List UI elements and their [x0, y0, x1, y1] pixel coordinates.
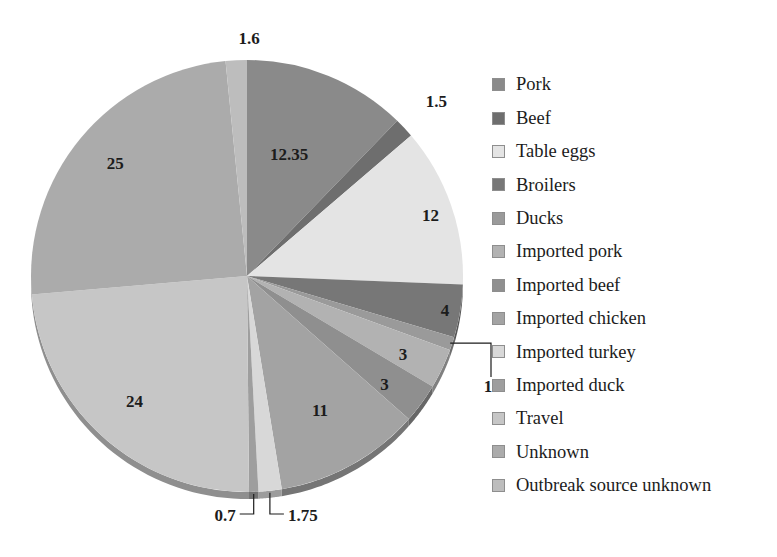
legend-item-label: Imported beef: [516, 276, 620, 295]
chart-legend: PorkBeefTable eggsBroilersDucksImported …: [492, 68, 772, 502]
legend-item-label: Broilers: [516, 176, 576, 195]
legend-item[interactable]: Beef: [492, 101, 772, 134]
pie-slice-value-label: 11: [312, 401, 328, 420]
legend-item-label: Ducks: [516, 209, 563, 228]
legend-swatch-icon: [492, 78, 505, 91]
legend-item-label: Beef: [516, 109, 551, 128]
legend-swatch-icon: [492, 345, 505, 358]
legend-item-label: Imported turkey: [516, 343, 636, 362]
legend-item-label: Pork: [516, 75, 551, 94]
legend-swatch-icon: [492, 245, 505, 258]
legend-item[interactable]: Table eggs: [492, 135, 772, 168]
legend-swatch-icon: [492, 212, 505, 225]
pie-slice-value-label: 1.75: [288, 506, 318, 525]
legend-swatch-icon: [492, 445, 505, 458]
legend-item[interactable]: Outbreak source unknown: [492, 469, 772, 502]
pie-slice-value-label: 0.7: [214, 506, 236, 525]
legend-item-label: Unknown: [516, 443, 589, 462]
pie-slice-value-label: 25: [107, 154, 124, 173]
legend-swatch-icon: [492, 312, 505, 325]
pie-slice-value-label: 3: [380, 375, 389, 394]
slice-leader-line: [450, 343, 491, 377]
pie-slice[interactable]: [31, 61, 247, 294]
legend-item[interactable]: Imported beef: [492, 268, 772, 301]
legend-swatch-icon: [492, 479, 505, 492]
legend-swatch-icon: [492, 178, 505, 191]
legend-item[interactable]: Pork: [492, 68, 772, 101]
pie-slice-value-label: 3: [399, 345, 408, 364]
pie-slice-value-label: 12: [422, 206, 439, 225]
legend-item[interactable]: Ducks: [492, 202, 772, 235]
legend-item[interactable]: Unknown: [492, 435, 772, 468]
pie-chart: 12.351.5124133111.750.724251.6 PorkBeefT…: [0, 0, 777, 557]
pie-slice[interactable]: [32, 276, 249, 492]
pie-slices: [31, 60, 463, 492]
legend-swatch-icon: [492, 145, 505, 158]
legend-item[interactable]: Imported pork: [492, 235, 772, 268]
pie-slice-value-label: 1: [484, 377, 493, 396]
legend-item-label: Imported duck: [516, 376, 624, 395]
legend-item-label: Table eggs: [516, 142, 595, 161]
legend-item[interactable]: Imported turkey: [492, 335, 772, 368]
pie-slice-value-label: 1.5: [426, 92, 447, 111]
legend-item[interactable]: Imported duck: [492, 369, 772, 402]
legend-item[interactable]: Broilers: [492, 168, 772, 201]
legend-item-label: Imported chicken: [516, 309, 646, 328]
legend-item[interactable]: Travel: [492, 402, 772, 435]
pie-slice-value-label: 1.6: [238, 29, 259, 48]
pie-slice-value-label: 24: [126, 392, 144, 411]
legend-swatch-icon: [492, 412, 505, 425]
legend-item-label: Outbreak source unknown: [516, 476, 711, 495]
legend-swatch-icon: [492, 112, 505, 125]
legend-swatch-icon: [492, 379, 505, 392]
legend-swatch-icon: [492, 279, 505, 292]
legend-item-label: Travel: [516, 409, 564, 428]
pie-slice-value-label: 12.35: [270, 145, 308, 164]
legend-item[interactable]: Imported chicken: [492, 302, 772, 335]
legend-item-label: Imported pork: [516, 242, 622, 261]
pie-slice-value-label: 4: [441, 301, 450, 320]
